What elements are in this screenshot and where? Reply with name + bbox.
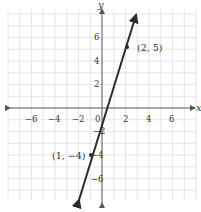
x-tick: −6 [25, 114, 38, 124]
y-axis-label: y [97, 0, 104, 10]
point-1-neg4 [89, 153, 93, 157]
x-axis-label: x [196, 102, 201, 113]
y-tick: −6 [91, 174, 104, 184]
x-tick-labels: −6 −4 −2 0 2 4 6 [25, 114, 174, 124]
point-label-1-neg4: (1, −4) [52, 150, 86, 161]
y-tick: 2 [94, 79, 99, 89]
x-tick: −4 [48, 114, 61, 124]
x-tick: 2 [123, 114, 128, 124]
point-2-5 [125, 45, 129, 49]
x-tick: −2 [72, 114, 85, 124]
y-tick: 4 [94, 56, 99, 66]
x-tick: 6 [169, 114, 174, 124]
coordinate-graph: x y −6 −4 −2 0 2 4 6 6 4 2 −2 −4 −6 (2, … [0, 0, 201, 212]
y-tick: 6 [94, 32, 99, 42]
x-tick: 4 [146, 114, 151, 124]
point-label-2-5: (2, 5) [137, 42, 163, 53]
origin-label: 0 [95, 114, 100, 124]
